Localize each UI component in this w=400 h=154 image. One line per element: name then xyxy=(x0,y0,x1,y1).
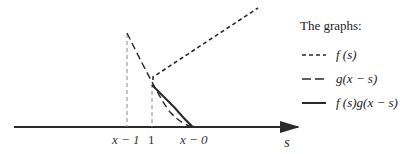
legend-item-g: g(x − s) xyxy=(300,67,398,91)
product-curve xyxy=(152,85,193,127)
legend-title: The graphs: xyxy=(300,18,398,34)
legend-label: f (s)g(x − s) xyxy=(336,95,398,111)
legend: The graphs: f (s) g(x − s) f (s)g(x − s) xyxy=(300,18,398,115)
long-dash-swatch-icon xyxy=(300,74,328,84)
short-dash-swatch-icon xyxy=(300,50,328,60)
tick-1: 1 xyxy=(148,132,155,148)
tick-x-minus-1: x − 1 xyxy=(112,132,140,148)
solid-swatch-icon xyxy=(300,98,328,108)
axis-variable-label: s xyxy=(284,134,290,151)
legend-item-f: f (s) xyxy=(300,43,398,67)
legend-label: f (s) xyxy=(336,47,357,63)
legend-item-product: f (s)g(x − s) xyxy=(300,91,398,115)
legend-label: g(x − s) xyxy=(336,71,377,87)
f-line xyxy=(153,8,258,80)
g-curve xyxy=(127,33,194,127)
tick-x-minus-0: x − 0 xyxy=(180,132,208,148)
